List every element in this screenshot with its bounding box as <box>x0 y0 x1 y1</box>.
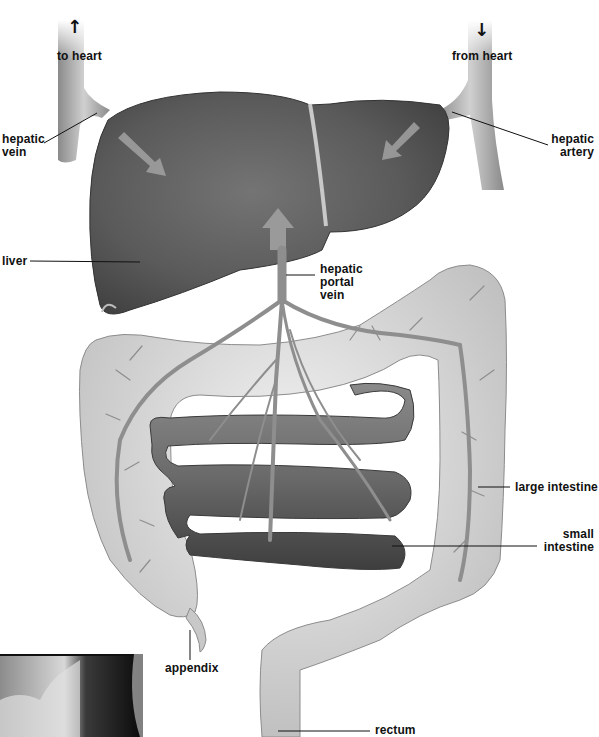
label-hepatic-artery-line2: artery <box>548 146 594 159</box>
label-hepatic-vein: hepatic vein <box>2 133 45 159</box>
label-from-heart: from heart <box>452 50 512 63</box>
label-small-intestine-line2: intestine <box>530 541 594 554</box>
label-liver: liver <box>2 255 27 268</box>
hepatic-portal-illustration <box>0 0 599 737</box>
label-hepatic-artery: hepatic artery <box>548 133 594 159</box>
small-intestine <box>150 383 414 569</box>
arrow-down-icon: ↓ <box>474 21 489 39</box>
label-large-intestine: large intestine <box>515 481 598 494</box>
label-hepatic-portal-vein: hepatic portal vein <box>320 263 363 302</box>
label-to-heart: to heart <box>57 50 102 63</box>
label-small-intestine: small intestine <box>530 528 594 554</box>
arrow-up-icon: ↑ <box>67 18 82 36</box>
liver <box>90 92 449 314</box>
aorta <box>436 20 504 190</box>
inset-photo <box>0 654 143 737</box>
label-hepatic-vein-line2: vein <box>2 146 45 159</box>
label-rectum: rectum <box>375 724 416 737</box>
label-hepatic-portal-vein-line3: vein <box>320 289 363 302</box>
label-appendix: appendix <box>165 662 218 675</box>
